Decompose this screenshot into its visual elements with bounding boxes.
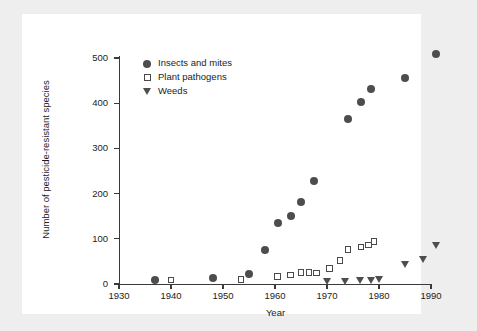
legend-item-plant-pathogens: Plant pathogens xyxy=(140,70,232,84)
x-tick-1990 xyxy=(430,284,431,289)
y-tick-100 xyxy=(114,238,119,239)
x-tick-1940 xyxy=(170,284,171,289)
data-point xyxy=(274,219,282,227)
y-tick-label-400: 400 xyxy=(74,98,108,108)
data-point xyxy=(371,238,378,245)
data-point xyxy=(168,277,175,284)
x-tick-label-1930: 1930 xyxy=(99,291,139,301)
x-tick-label-1970: 1970 xyxy=(307,291,347,301)
data-point xyxy=(310,177,318,185)
legend-item-weeds: Weeds xyxy=(140,84,232,98)
x-tick-1980 xyxy=(378,284,379,289)
y-tick-300 xyxy=(114,148,119,149)
data-point xyxy=(274,273,281,280)
x-tick-label-1950: 1950 xyxy=(203,291,243,301)
legend-item-insects-and-mites: Insects and mites xyxy=(140,56,232,70)
data-point xyxy=(341,278,349,285)
data-point xyxy=(287,272,294,279)
legend-label: Plant pathogens xyxy=(158,71,227,82)
data-point xyxy=(238,276,245,283)
data-point xyxy=(326,265,333,272)
data-point xyxy=(401,261,409,268)
legend-label: Insects and mites xyxy=(158,57,232,68)
x-tick-1960 xyxy=(274,284,275,289)
legend-marker xyxy=(140,56,154,70)
data-point xyxy=(287,212,295,220)
data-point xyxy=(297,198,305,206)
x-tick-label-1990: 1990 xyxy=(411,291,451,301)
data-point xyxy=(261,246,269,254)
triangle-down-icon xyxy=(143,88,151,95)
y-axis-title: Number of pesticide-resistant species xyxy=(40,75,51,245)
data-point xyxy=(401,74,409,82)
data-point xyxy=(367,277,375,284)
y-tick-label-100: 100 xyxy=(74,234,108,244)
data-point xyxy=(375,276,383,283)
x-tick-label-1980: 1980 xyxy=(359,291,399,301)
y-tick-200 xyxy=(114,193,119,194)
data-point xyxy=(245,270,253,278)
data-point xyxy=(345,246,352,253)
y-tick-label-500: 500 xyxy=(74,53,108,63)
legend-marker xyxy=(140,70,154,84)
data-point xyxy=(358,244,365,251)
data-point xyxy=(209,274,217,282)
x-axis-title: Year xyxy=(119,307,432,318)
data-point xyxy=(323,278,331,285)
data-point xyxy=(432,242,440,249)
y-tick-500 xyxy=(114,57,119,58)
data-point xyxy=(419,256,427,263)
x-tick-1950 xyxy=(222,284,223,289)
legend-marker xyxy=(140,84,154,98)
x-tick-label-1960: 1960 xyxy=(255,291,295,301)
y-axis-line xyxy=(119,56,120,285)
legend: Insects and mitesPlant pathogensWeeds xyxy=(140,56,232,98)
y-tick-label-300: 300 xyxy=(74,143,108,153)
x-tick-1930 xyxy=(118,284,119,289)
data-point xyxy=(432,50,440,58)
data-point xyxy=(367,85,375,93)
filled-circle-icon xyxy=(143,60,151,68)
y-tick-400 xyxy=(114,103,119,104)
y-tick-label-200: 200 xyxy=(74,189,108,199)
open-square-icon xyxy=(144,74,151,81)
x-tick-label-1940: 1940 xyxy=(151,291,191,301)
data-point xyxy=(356,277,364,284)
figure-canvas: 0100200300400500 19301940195019601970198… xyxy=(0,0,477,331)
data-point xyxy=(298,269,305,276)
data-point xyxy=(313,270,320,277)
data-point xyxy=(357,98,365,106)
y-tick-label-0: 0 xyxy=(74,279,108,289)
plot-panel: 0100200300400500 19301940195019601970198… xyxy=(22,14,421,314)
data-point xyxy=(344,115,352,123)
data-point xyxy=(306,269,313,276)
legend-label: Weeds xyxy=(158,85,187,96)
data-point xyxy=(337,257,344,264)
